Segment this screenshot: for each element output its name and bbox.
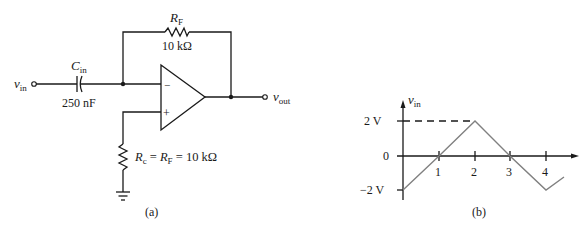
rc-equation-label: Rc = RF = 10 kΩ xyxy=(134,150,217,166)
inverting-input-sign: − xyxy=(164,79,170,91)
x-tick-4: 4 xyxy=(542,165,548,179)
opamp-symbol xyxy=(161,65,205,130)
vin-label: vin xyxy=(14,76,27,93)
y-tick-neg2v: −2 V xyxy=(360,183,385,197)
caption-a: (a) xyxy=(145,205,158,219)
ground-icon xyxy=(116,192,130,200)
vout-label: vout xyxy=(273,89,291,106)
y-axis-label: vin xyxy=(408,92,421,109)
x-tick-2: 2 xyxy=(471,165,477,179)
y-axis-arrow-icon xyxy=(401,100,406,108)
noninverting-input-sign: + xyxy=(163,106,170,120)
input-terminal xyxy=(32,82,37,87)
y-tick-0: 0 xyxy=(383,149,389,163)
cap-name-label: Cin xyxy=(71,58,87,75)
x-axis-arrow-icon xyxy=(571,154,579,159)
cap-value-label: 250 nF xyxy=(62,96,96,110)
circuit-diagram: vin Cin 250 nF RF 10 kΩ − + vout xyxy=(14,10,291,219)
rf-value-label: 10 kΩ xyxy=(162,39,192,53)
vin-waveform-graph: vin 2 V 0 −2 V 1 2 3 4 (b) xyxy=(360,92,579,219)
figure-canvas: vin Cin 250 nF RF 10 kΩ − + vout xyxy=(0,0,579,229)
rf-name-label: RF xyxy=(169,10,183,27)
x-tick-1: 1 xyxy=(435,165,441,179)
comp-resistor-symbol xyxy=(119,144,127,170)
feedback-resistor-symbol xyxy=(165,28,189,36)
caption-b: (b) xyxy=(472,205,486,219)
y-tick-2v: 2 V xyxy=(364,114,382,128)
output-terminal xyxy=(263,95,268,100)
junction-node-output xyxy=(229,95,233,99)
x-tick-3: 3 xyxy=(506,165,512,179)
